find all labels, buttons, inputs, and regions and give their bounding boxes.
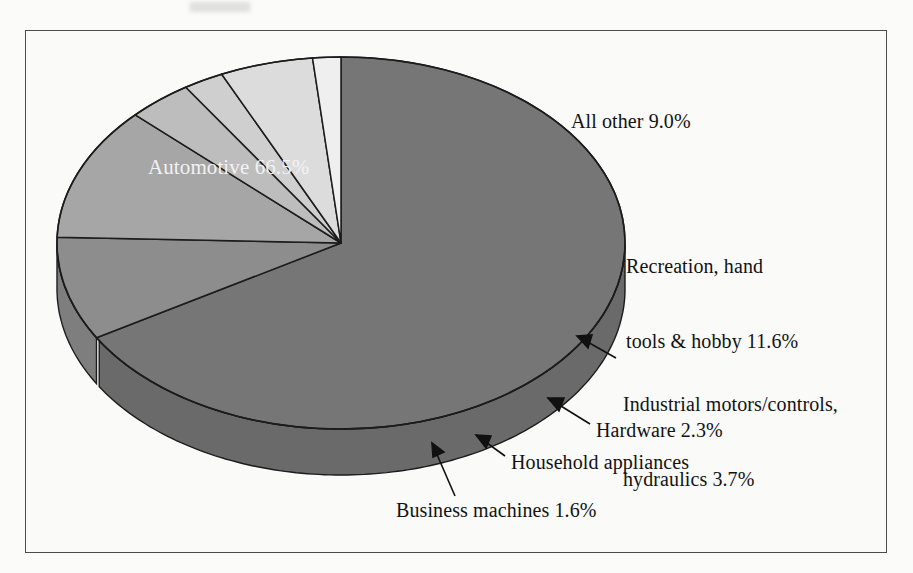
label-hardware: Hardware 2.3%: [596, 418, 723, 443]
label-industrial-line1: Industrial motors/controls,: [623, 392, 838, 417]
scan-artifact: [190, 2, 250, 12]
label-household-appliances: Household appliances: [511, 450, 689, 475]
label-recreation-line1: Recreation, hand: [626, 254, 798, 279]
label-automotive: Automotive 66.5%: [148, 155, 309, 180]
label-business-machines: Business machines 1.6%: [396, 498, 597, 523]
label-all-other: All other 9.0%: [571, 109, 691, 134]
